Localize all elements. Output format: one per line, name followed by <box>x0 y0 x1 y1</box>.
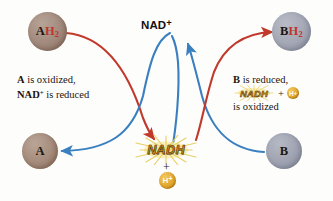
caption-left-line1-bold: A <box>17 74 25 85</box>
ah2-base: A <box>36 24 45 38</box>
caption-proton-circle: H+ <box>287 87 300 100</box>
molecule-b: B <box>266 133 302 169</box>
molecule-ah2-label: AH2 <box>36 25 60 38</box>
caption-left-line1: A is oxidized, <box>17 73 89 86</box>
bh2-hydrogen: H <box>289 24 299 38</box>
caption-left-line2-bold: NAD <box>17 89 40 100</box>
caption-right-line1-bold: B <box>233 74 240 85</box>
ah2-hydrogen-count: 2 <box>55 29 59 39</box>
caption-proton-charge: + <box>294 87 297 100</box>
caption-left-line2-rest: is reduced <box>44 89 89 100</box>
bh2-hydrogen-count: 2 <box>299 29 303 39</box>
bh2-base: B <box>280 24 289 38</box>
molecule-b-label: B <box>280 145 289 158</box>
ah2-hydrogen: H <box>45 24 55 38</box>
caption-nadh-text: NADH <box>240 87 268 100</box>
caption-right-line2: NADH + H+ <box>233 86 299 100</box>
proton-label: H+ <box>163 176 173 185</box>
proton-circle: H+ <box>159 172 176 189</box>
molecule-bh2: BH2 <box>272 12 311 51</box>
caption-right-line1-rest: is reduced, <box>240 74 288 85</box>
caption-right-plus: + <box>278 87 284 100</box>
molecule-a-label: A <box>35 145 44 158</box>
caption-right: B is reduced, <box>233 73 299 113</box>
nad-plus-label: NAD+ <box>141 17 172 31</box>
arrow-a-branch-to-nadplus <box>172 36 179 150</box>
caption-nadh-badge: NADH <box>233 86 275 100</box>
caption-left-line2: NAD+ is reduced <box>17 86 89 101</box>
nad-plus-charge: + <box>166 17 172 28</box>
nad-plus-text: NAD <box>141 19 166 31</box>
molecule-bh2-label: BH2 <box>280 25 303 38</box>
caption-left-line1-rest: is oxidized, <box>25 74 76 85</box>
proton-charge: + <box>168 175 172 182</box>
caption-left: A is oxidized, NAD+ is reduced <box>17 73 89 101</box>
molecule-a: A <box>22 133 58 169</box>
caption-right-line3: is oxidized <box>233 100 299 113</box>
molecule-ah2: AH2 <box>28 12 67 51</box>
redox-cycle-diagram: AH2 BH2 A B NAD+ <box>0 0 333 201</box>
nadh-text: NADH <box>147 143 185 157</box>
